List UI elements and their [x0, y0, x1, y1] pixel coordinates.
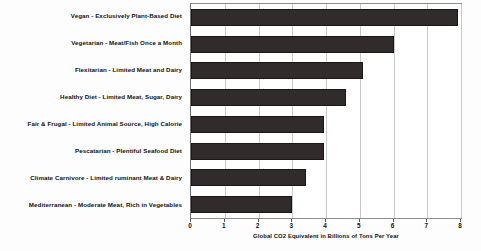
category-axis: Vegan - Exclusively Plant-Based Diet Veg…	[0, 3, 186, 219]
category-tick: Healthy Diet - Limited Meat, Sugar, Dair…	[0, 84, 186, 111]
bar-row	[191, 84, 461, 111]
category-label: Climate Carnivore - Limited ruminant Mea…	[30, 175, 182, 182]
gridline	[461, 4, 462, 218]
bar	[191, 116, 324, 133]
bar-row	[191, 138, 461, 165]
bar-series	[191, 4, 461, 218]
category-tick: Climate Carnivore - Limited ruminant Mea…	[0, 165, 186, 192]
category-tick: Fair & Frugal - Limited Animal Source, H…	[0, 111, 186, 138]
category-tick: Pescatarian - Plentiful Seafood Diet	[0, 138, 186, 165]
bar	[191, 62, 363, 79]
bar	[191, 9, 458, 26]
category-tick: Flexitarian - Limited Meat and Dairy	[0, 57, 186, 84]
category-label: Vegetarian - Meat/Fish Once a Month	[71, 40, 182, 47]
axis-tick-label: 2	[256, 222, 260, 229]
bar	[191, 36, 394, 53]
bar-row	[191, 111, 461, 138]
category-tick: Mediterranean - Moderate Meat, Rich in V…	[0, 192, 186, 219]
bar-row	[191, 4, 461, 31]
bar	[191, 143, 324, 160]
bar-row	[191, 191, 461, 218]
axis-tick-label: 5	[357, 222, 361, 229]
axis-tick-label: 1	[222, 222, 226, 229]
axis-tick-label: 4	[323, 222, 327, 229]
bar-row	[191, 58, 461, 85]
plot-area	[190, 3, 462, 219]
category-label: Pescatarian - Plentiful Seafood Diet	[75, 148, 182, 155]
x-axis-title: Global CO2 Equivalent in Billions of Ton…	[190, 233, 462, 239]
axis-tick-label: 8	[458, 222, 462, 229]
category-label: Vegan - Exclusively Plant-Based Diet	[71, 13, 182, 20]
bar-row	[191, 165, 461, 192]
axis-tick-label: 3	[289, 222, 293, 229]
bar	[191, 196, 292, 213]
axis-tick-label: 0	[188, 222, 192, 229]
bar-chart: Vegan - Exclusively Plant-Based Diet Veg…	[0, 0, 481, 251]
category-tick: Vegan - Exclusively Plant-Based Diet	[0, 3, 186, 30]
bar-row	[191, 31, 461, 58]
axis-tick-label: 7	[424, 222, 428, 229]
category-label: Fair & Frugal - Limited Animal Source, H…	[28, 121, 182, 128]
category-label: Mediterranean - Moderate Meat, Rich in V…	[29, 202, 182, 209]
category-tick: Vegetarian - Meat/Fish Once a Month	[0, 30, 186, 57]
category-label: Healthy Diet - Limited Meat, Sugar, Dair…	[60, 94, 182, 101]
bar	[191, 89, 346, 106]
category-label: Flexitarian - Limited Meat and Dairy	[75, 67, 182, 74]
bar	[191, 169, 306, 186]
axis-tick-label: 6	[391, 222, 395, 229]
